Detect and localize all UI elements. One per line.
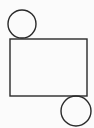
rectangle-shape (10, 39, 87, 96)
top-circle-shape (8, 10, 36, 38)
diagram-canvas (0, 0, 94, 128)
bottom-circle-shape (61, 96, 91, 126)
